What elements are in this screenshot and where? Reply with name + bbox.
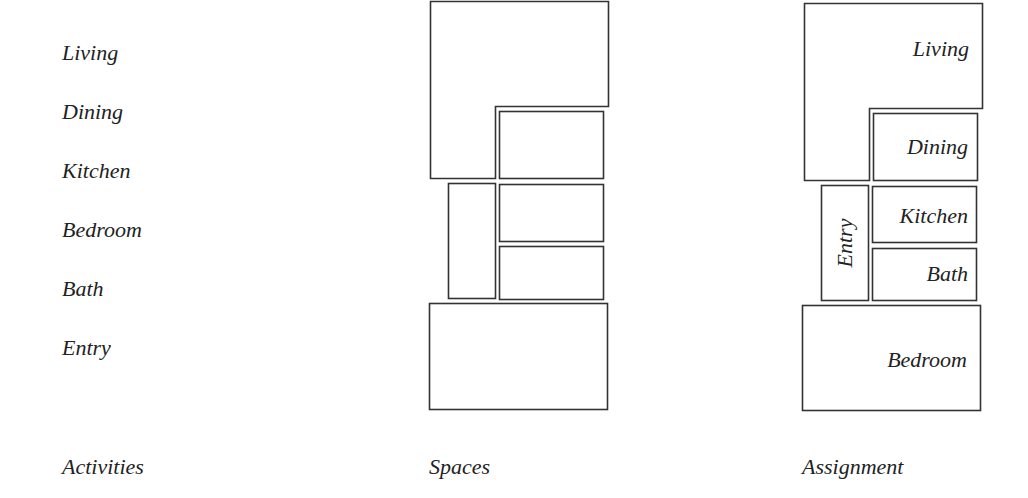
caption-spaces: Spaces [429, 454, 490, 480]
room-kitchen-label: Kitchen [899, 203, 968, 228]
room-entry-label: Entry [832, 218, 857, 268]
space-l-shape [431, 2, 609, 179]
space-upper-right [500, 112, 604, 179]
space-narrow-left [449, 184, 496, 299]
caption-activities: Activities [62, 454, 144, 480]
room-bath-label: Bath [926, 261, 968, 286]
caption-assignment: Assignment [802, 454, 903, 480]
room-living-label: Living [912, 36, 969, 61]
space-bottom [430, 304, 608, 410]
spaces-plan [430, 2, 609, 410]
space-middle-right [500, 185, 604, 242]
room-dining-label: Dining [906, 134, 968, 159]
floor-plans: Living Dining Entry Kitchen Bath Bedroom [0, 0, 1028, 498]
assignment-plan: Living Dining Entry Kitchen Bath Bedroom [803, 4, 983, 411]
room-bedroom-label: Bedroom [887, 347, 967, 372]
space-lower-right [500, 247, 604, 300]
